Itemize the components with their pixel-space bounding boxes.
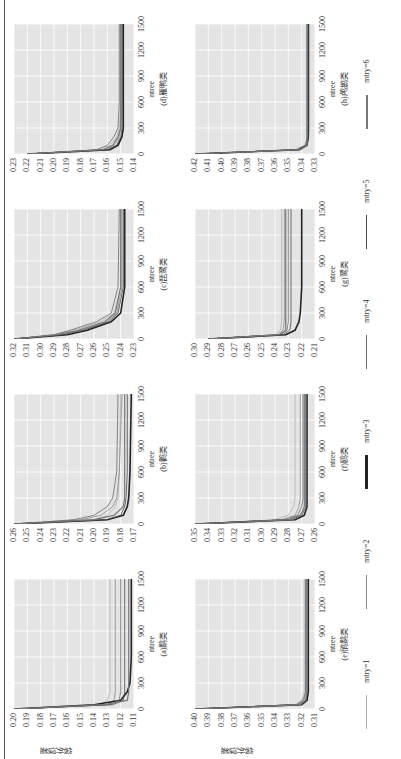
y-tick-label: 0.29	[204, 343, 212, 369]
legend-swatch	[365, 455, 368, 489]
panel-title: (g)鹭类	[338, 209, 349, 339]
series-line	[27, 24, 120, 154]
series-line	[14, 394, 125, 524]
panel-title: (b)鹳类	[157, 394, 168, 524]
y-tick-label: 0.42	[191, 158, 199, 184]
y-tick-label: 0.35	[284, 158, 292, 184]
panel-title: (e)鸻鹬类	[338, 579, 349, 709]
y-tick-label: 0.28	[218, 343, 226, 369]
x-tick-label: 0	[137, 142, 146, 166]
y-tick-label: 0.33	[284, 713, 292, 739]
legend-label: mtry=6	[362, 59, 371, 83]
y-tick-label: 0.12	[117, 713, 125, 739]
y-tick-label: 0.35	[258, 713, 266, 739]
legend-swatch	[366, 95, 368, 129]
y-tick-label: 0.19	[103, 528, 111, 554]
y-tick-label: 0.27	[77, 343, 85, 369]
x-tick-label: 0	[318, 327, 327, 351]
y-tick-label: 0.21	[37, 158, 45, 184]
y-tick-label: 0.31	[244, 528, 252, 554]
x-tick-label: 900	[318, 64, 327, 88]
series-line	[14, 579, 115, 709]
x-tick-label: 300	[318, 116, 327, 140]
series-line	[27, 24, 122, 154]
series-line	[195, 394, 300, 524]
x-axis-label: ntree	[147, 394, 156, 524]
y-tick-label: 0.17	[50, 713, 58, 739]
series-line	[208, 209, 284, 339]
x-tick-label: 900	[137, 249, 146, 273]
plot-area	[14, 579, 134, 709]
y-tick-label: 0.38	[244, 158, 252, 184]
y-tick-label: 0.39	[231, 158, 239, 184]
y-tick-label: 0.20	[10, 713, 18, 739]
legend-label: mtry=1	[362, 659, 371, 683]
y-tick-label: 0.28	[284, 528, 292, 554]
series-line	[195, 579, 308, 709]
series-line	[195, 24, 308, 154]
y-tick-label: 0.33	[218, 528, 226, 554]
x-tick-label: 900	[318, 619, 327, 643]
x-tick-label: 1500	[137, 382, 146, 406]
y-tick-label: 0.18	[77, 158, 85, 184]
y-tick-label: 0.23	[284, 343, 292, 369]
x-axis-label: ntree	[328, 24, 337, 154]
x-tick-label: 900	[137, 434, 146, 458]
y-tick-label: 0.26	[244, 343, 252, 369]
series-line	[208, 209, 291, 339]
x-tick-label: 1200	[137, 593, 146, 617]
y-tick-label: 0.22	[298, 343, 306, 369]
y-tick-label: 0.32	[10, 343, 18, 369]
y-tick-label: 0.24	[37, 528, 45, 554]
x-axis-label: ntree	[328, 394, 337, 524]
legend-swatch	[366, 575, 367, 609]
panel-title: (c)琵鹭类	[157, 209, 168, 339]
plot-area	[195, 394, 315, 524]
x-tick-label: 1500	[318, 382, 327, 406]
y-tick-label: 0.16	[63, 713, 71, 739]
chart-panel: 0.420.410.400.390.380.370.360.350.340.33…	[195, 14, 355, 184]
series-line	[195, 394, 304, 524]
y-tick-label: 0.23	[10, 158, 18, 184]
series-line	[195, 394, 303, 524]
series-line	[208, 209, 281, 339]
y-tick-label: 0.25	[103, 343, 111, 369]
x-axis-label: ntree	[147, 24, 156, 154]
x-tick-label: 1200	[318, 593, 327, 617]
series-line	[14, 394, 122, 524]
x-tick-label: 600	[318, 275, 327, 299]
series-line	[195, 394, 295, 524]
y-tick-label: 0.38	[218, 713, 226, 739]
x-tick-label: 0	[318, 142, 327, 166]
series-line	[195, 579, 304, 709]
y-tick-label: 0.18	[117, 528, 125, 554]
legend-item: mtry=6	[362, 59, 371, 129]
y-tick-label: 0.22	[63, 528, 71, 554]
legend-label: mtry=4	[362, 299, 371, 323]
y-tick-label: 0.36	[271, 158, 279, 184]
series-line	[14, 579, 131, 709]
x-tick-label: 300	[318, 301, 327, 325]
legend-swatch	[366, 695, 367, 729]
series-line	[195, 579, 307, 709]
y-tick-label: 0.20	[50, 158, 58, 184]
y-tick-label: 0.24	[271, 343, 279, 369]
y-tick-label: 0.30	[258, 528, 266, 554]
y-tick-label: 0.40	[218, 158, 226, 184]
y-tick-label: 0.36	[244, 713, 252, 739]
y-tick-label: 0.26	[90, 343, 98, 369]
x-tick-label: 1200	[318, 223, 327, 247]
y-tick-label: 0.27	[231, 343, 239, 369]
legend: mtry=1mtry=2mtry=3mtry=4mtry=5mtry=6	[362, 0, 382, 759]
series-line	[195, 579, 306, 709]
series-line	[27, 24, 123, 154]
legend-label: mtry=3	[362, 419, 371, 443]
plot-area	[14, 394, 134, 524]
x-tick-label: 0	[137, 697, 146, 721]
y-tick-label: 0.26	[10, 528, 18, 554]
y-tick-label: 0.29	[50, 343, 58, 369]
y-tick-label: 0.15	[117, 158, 125, 184]
chart-panel: 0.400.390.380.370.360.350.340.330.320.31…	[195, 569, 355, 739]
legend-item: mtry=2	[362, 539, 371, 609]
x-tick-label: 300	[318, 671, 327, 695]
